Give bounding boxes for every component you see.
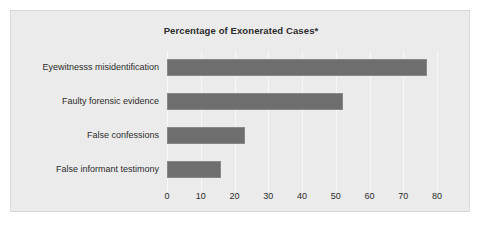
x-axis-tick-labels: 01020304050607080	[167, 192, 437, 206]
figure: Percentage of Exonerated Cases* Eyewitne…	[0, 0, 480, 226]
x-tick-label: 50	[331, 192, 341, 201]
bar-row: False informant testimony	[167, 152, 437, 186]
bar-row: Faulty forensic evidence	[167, 85, 437, 119]
bar	[167, 127, 245, 144]
x-tick-label: 0	[164, 192, 169, 201]
x-tick-label: 30	[263, 192, 273, 201]
category-label: False informant testimony	[56, 165, 159, 174]
gridline-80	[437, 51, 438, 192]
bar	[167, 161, 221, 178]
plot-area: Eyewitnesss misidentificationFaulty fore…	[167, 51, 437, 186]
bar-series: Eyewitnesss misidentificationFaulty fore…	[167, 51, 437, 186]
bar-row: False confessions	[167, 119, 437, 153]
x-tick-label: 70	[398, 192, 408, 201]
x-tick-label: 40	[297, 192, 307, 201]
bar-row: Eyewitnesss misidentification	[167, 51, 437, 85]
x-tick-label: 60	[364, 192, 374, 201]
chart-title: Percentage of Exonerated Cases*	[11, 25, 471, 36]
x-tick-label: 20	[229, 192, 239, 201]
category-label: Faulty forensic evidence	[62, 97, 159, 106]
bar	[167, 59, 427, 76]
bar	[167, 93, 343, 110]
category-label: Eyewitnesss misidentification	[42, 63, 159, 72]
x-tick-label: 10	[196, 192, 206, 201]
chart-panel: Percentage of Exonerated Cases* Eyewitne…	[10, 10, 470, 212]
x-tick-label: 80	[432, 192, 442, 201]
category-label: False confessions	[87, 131, 159, 140]
